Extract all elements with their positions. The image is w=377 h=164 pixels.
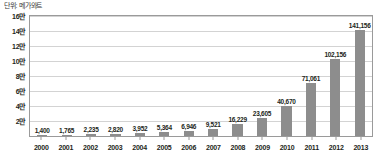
bar-value-label: 2,820 [108, 126, 123, 133]
x-axis-cell: 2008 [226, 137, 251, 164]
x-axis-cell: 2012 [324, 137, 349, 164]
bar: 71,061 [306, 83, 316, 136]
x-axis-tick-label: 2011 [304, 144, 318, 152]
bar-slot: 6,946 [177, 16, 201, 136]
bar-slot: 23,605 [250, 16, 274, 136]
x-axis-tick-label: 2005 [157, 144, 172, 152]
bar-value-label: 2,235 [84, 126, 99, 133]
bar-value-label: 1,765 [59, 127, 74, 134]
bar: 2,235 [86, 134, 96, 136]
x-axis-cell: 2005 [152, 137, 177, 164]
x-axis-tick-mark [164, 137, 165, 140]
x-axis-tick-label: 2012 [329, 144, 344, 152]
y-axis-tick-label: 8만 [16, 73, 25, 80]
bar-slot: 71,061 [299, 16, 323, 136]
bar-series: 1,4001,7652,2352,8203,9525,3646,9469,521… [30, 16, 372, 136]
bar-value-label: 5,364 [157, 124, 172, 131]
x-axis-tick-mark [90, 137, 91, 140]
bar: 5,364 [159, 132, 169, 136]
x-axis-tick-mark [360, 137, 361, 140]
x-axis: 2000200120022003200420052006200720082009… [29, 137, 373, 164]
y-axis: 16만14만12만10만8만6만4만2만 [0, 15, 27, 137]
x-axis-tick-label: 2013 [353, 144, 368, 152]
x-axis-tick-label: 2000 [34, 144, 49, 152]
bar-value-label: 3,952 [132, 125, 147, 132]
x-axis-tick-label: 2004 [132, 144, 147, 152]
bar-value-label: 71,061 [302, 75, 320, 82]
bar-value-label: 6,946 [181, 123, 196, 130]
bar-value-label: 9,521 [206, 121, 221, 128]
x-axis-cell: 2003 [103, 137, 128, 164]
x-axis-cell: 2001 [54, 137, 79, 164]
y-axis-tick-label: 10만 [12, 58, 25, 65]
bar-slot: 3,952 [128, 16, 152, 136]
x-axis-tick-mark [41, 137, 42, 140]
plot-area: 1,4001,7652,2352,8203,9525,3646,9469,521… [29, 15, 373, 137]
x-axis-cell: 2006 [176, 137, 201, 164]
bar: 1,765 [62, 135, 72, 136]
x-axis-tick-label: 2003 [108, 144, 123, 152]
x-axis-cell: 2002 [78, 137, 103, 164]
x-axis-tick-mark [262, 137, 263, 140]
y-axis-tick-label: 12만 [12, 43, 25, 50]
bar: 6,946 [184, 131, 194, 136]
bar-value-label: 1,400 [35, 127, 50, 134]
bar-value-label: 23,605 [253, 110, 271, 117]
bar: 16,229 [232, 124, 242, 136]
bar-value-label: 141,156 [349, 22, 371, 29]
x-axis-tick-label: 2002 [83, 144, 98, 152]
bar: 2,820 [110, 134, 120, 136]
x-axis-cell: 2000 [29, 137, 54, 164]
x-axis-cell: 2013 [349, 137, 374, 164]
x-axis-tick-mark [287, 137, 288, 140]
bar: 141,156 [355, 30, 365, 136]
x-axis-cell: 2011 [299, 137, 324, 164]
x-axis-cell: 2007 [201, 137, 226, 164]
x-axis-tick-mark [213, 137, 214, 140]
x-axis-tick-label: 2001 [58, 144, 73, 152]
x-axis-tick-label: 2009 [255, 144, 270, 152]
bar: 23,605 [257, 118, 267, 136]
x-axis-tick-label: 2010 [280, 144, 295, 152]
bar-slot: 2,235 [79, 16, 103, 136]
bar: 3,952 [135, 133, 145, 136]
y-axis-tick-label: 2만 [16, 118, 25, 125]
bar-slot: 1,400 [30, 16, 54, 136]
bar: 40,670 [281, 106, 291, 137]
y-axis-tick-label: 16만 [12, 13, 25, 20]
bar-value-label: 16,229 [228, 116, 246, 123]
x-axis-cell: 2004 [127, 137, 152, 164]
bar-slot: 1,765 [54, 16, 78, 136]
bar-slot: 141,156 [347, 16, 371, 136]
bar: 1,400 [37, 135, 47, 136]
x-axis-tick-mark [188, 137, 189, 140]
x-axis-cell: 2010 [275, 137, 300, 164]
x-axis-tick-mark [311, 137, 312, 140]
bar-slot: 2,820 [103, 16, 127, 136]
bar-slot: 40,670 [274, 16, 298, 136]
x-axis-cell: 2009 [250, 137, 275, 164]
unit-caption: 단위: 메가와트 [4, 1, 42, 10]
bar: 102,156 [330, 59, 340, 136]
x-axis-tick-label: 2008 [231, 144, 246, 152]
bar: 9,521 [208, 129, 218, 136]
bar-slot: 9,521 [201, 16, 225, 136]
x-axis-tick-label: 2006 [181, 144, 196, 152]
x-axis-tick-mark [237, 137, 238, 140]
x-axis-tick-label: 2007 [206, 144, 221, 152]
y-axis-tick-label: 6만 [16, 88, 25, 95]
bar-value-label: 102,156 [324, 51, 346, 58]
y-axis-tick-label: 14만 [12, 28, 25, 35]
x-axis-tick-mark [115, 137, 116, 140]
bar-slot: 16,229 [225, 16, 249, 136]
y-axis-tick-label: 4만 [16, 103, 25, 110]
bar-slot: 5,364 [152, 16, 176, 136]
x-axis-tick-mark [139, 137, 140, 140]
bar-slot: 102,156 [323, 16, 347, 136]
x-axis-tick-mark [65, 137, 66, 140]
x-axis-tick-mark [336, 137, 337, 140]
bar-chart: 단위: 메가와트 16만14만12만10만8만6만4만2만 1,4001,765… [0, 0, 377, 164]
bar-value-label: 40,670 [277, 98, 295, 105]
